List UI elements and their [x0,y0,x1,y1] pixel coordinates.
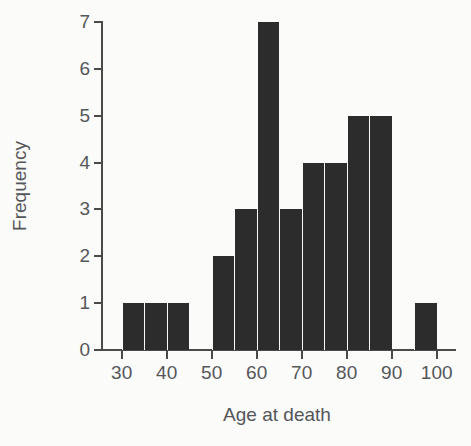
histogram-bar [257,22,280,350]
y-axis-tick [94,21,102,23]
histogram-bar [347,116,370,350]
x-axis-tick [211,350,213,359]
y-axis-title: Frequency [9,96,31,276]
y-axis-tick-label: 1 [60,292,90,314]
histogram-bar [167,303,190,350]
x-axis-tick [391,350,393,359]
y-axis-tick [94,115,102,117]
histogram-bar [302,163,325,350]
y-axis-tick-label: 3 [60,198,90,220]
y-axis-tick [94,349,102,351]
x-axis-tick [166,350,168,359]
y-axis-tick [94,162,102,164]
histogram-figure: 01234567 30405060708090100 Age at death … [0,0,471,446]
histogram-bar [212,256,235,350]
x-axis-title: Age at death [102,404,452,426]
histogram-bar [234,209,257,350]
x-axis-tick [346,350,348,359]
y-axis-tick [94,255,102,257]
x-axis-tick [301,350,303,359]
y-axis-tick-label: 4 [60,152,90,174]
histogram-bar [122,303,145,350]
histogram-bar [324,163,347,350]
x-axis-tick [436,350,438,359]
x-axis-tick [256,350,258,359]
y-axis-tick-label: 6 [60,58,90,80]
y-axis-tick [94,68,102,70]
histogram-bar [144,303,167,350]
histogram-bar [414,303,437,350]
y-axis-tick [94,302,102,304]
y-axis-tick-label: 0 [60,339,90,361]
y-axis-tick [94,208,102,210]
histogram-bars [102,22,454,350]
y-axis-tick-label: 5 [60,105,90,127]
histogram-bar [279,209,302,350]
y-axis-tick-label: 7 [60,11,90,33]
histogram-bar [369,116,392,350]
y-axis-tick-label: 2 [60,245,90,267]
x-axis-tick-label: 100 [407,362,467,384]
x-axis-tick [121,350,123,359]
